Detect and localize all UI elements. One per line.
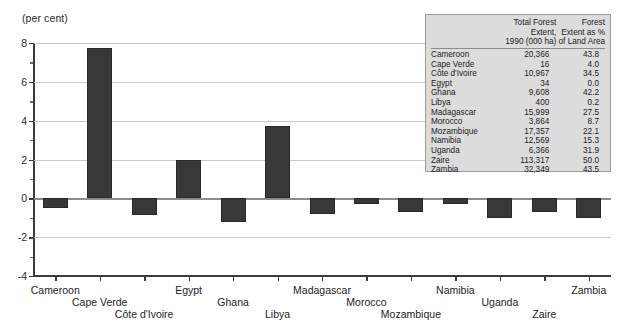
y-axis-tick <box>29 160 34 161</box>
y-axis-minor-tick <box>30 218 33 219</box>
y-axis-tick-label: -2 <box>18 231 27 243</box>
category-label: Uganda <box>481 296 518 308</box>
category-label: Zambia <box>571 284 606 296</box>
cell-country: Morocco <box>431 117 502 127</box>
table-row: Egypt340.0 <box>431 79 605 89</box>
cell-country: Mozambique <box>431 127 502 137</box>
category-axis-tick <box>366 275 367 281</box>
header-line-2: 1990 (000 ha) <box>505 37 556 46</box>
bar <box>354 198 379 204</box>
cell-pct-land-area: 31.9 <box>556 146 605 156</box>
category-axis-tick <box>500 275 501 281</box>
cell-country: Uganda <box>431 146 502 156</box>
bar <box>443 198 468 204</box>
table-row: Libya4000.2 <box>431 98 605 108</box>
y-axis-minor-tick <box>30 179 33 180</box>
y-axis-tick <box>29 43 34 44</box>
cell-forest-extent: 6,366 <box>502 146 556 156</box>
category-label: Côte d'Ivoire <box>115 308 174 320</box>
category-label: Ghana <box>217 296 249 308</box>
table-row: Morocco3,8648.7 <box>431 117 605 127</box>
bar <box>398 198 423 212</box>
cell-country: Zaire <box>431 156 502 166</box>
table-header-forest-extent-pct: Forest Extent as % of Land Area <box>556 18 605 48</box>
header-line-2: Extent as % <box>561 28 605 37</box>
category-label: Morocco <box>346 296 386 308</box>
cell-pct-land-area: 50.0 <box>556 156 605 166</box>
y-axis-minor-tick <box>30 101 33 102</box>
y-axis-tick-label: 2 <box>21 154 27 166</box>
bar <box>43 198 68 208</box>
bar <box>265 126 290 199</box>
table-row: Mozambique17,35722.1 <box>431 127 605 137</box>
y-axis-minor-tick <box>30 140 33 141</box>
cell-pct-land-area: 15.3 <box>556 136 605 146</box>
table-row: Uganda6,36631.9 <box>431 146 605 156</box>
y-axis-tick-label: 8 <box>21 37 27 49</box>
gridline <box>33 237 611 238</box>
y-axis-tick-label: 6 <box>21 76 27 88</box>
category-axis-tick <box>100 275 101 281</box>
cell-forest-extent: 16 <box>502 60 556 70</box>
y-axis-tick-label: -4 <box>18 270 27 282</box>
cell-pct-land-area: 34.5 <box>556 69 605 79</box>
cell-forest-extent: 3,864 <box>502 117 556 127</box>
category-label: Zaire <box>532 308 556 320</box>
cell-pct-land-area: 0.2 <box>556 98 605 108</box>
category-label: Egypt <box>175 284 202 296</box>
category-axis-tick <box>55 275 56 281</box>
cell-forest-extent: 32,349 <box>502 165 556 175</box>
cell-pct-land-area: 43.8 <box>556 48 605 60</box>
y-axis-minor-tick <box>30 62 33 63</box>
cell-pct-land-area: 8.7 <box>556 117 605 127</box>
table-header-total-forest-extent: Total Forest Extent, 1990 (000 ha) <box>502 18 556 48</box>
category-label: Cameroon <box>31 284 80 296</box>
category-axis-tick <box>455 275 456 281</box>
bar <box>487 198 512 217</box>
y-axis-tick <box>29 121 34 122</box>
cell-forest-extent: 20,366 <box>502 48 556 60</box>
cell-forest-extent: 34 <box>502 79 556 89</box>
table-row: Côte d'Ivoire10,96734.5 <box>431 69 605 79</box>
cell-country: Ghana <box>431 88 502 98</box>
category-label: Madagascar <box>293 284 351 296</box>
table-header-row: Total Forest Extent, 1990 (000 ha) Fores… <box>431 18 605 48</box>
category-axis-tick <box>589 275 590 281</box>
header-line-1: Total Forest Extent, <box>513 18 556 37</box>
table-header-country <box>431 18 502 48</box>
cell-pct-land-area: 0.0 <box>556 79 605 89</box>
cell-country: Namibia <box>431 136 502 146</box>
category-axis-tick <box>278 275 279 281</box>
bar <box>576 198 601 217</box>
y-axis-tick <box>29 198 34 199</box>
cell-forest-extent: 15,999 <box>502 108 556 118</box>
cell-pct-land-area: 43.5 <box>556 165 605 175</box>
figure: (per cent) -4-202468 CameroonCape VerdeC… <box>0 0 619 330</box>
category-axis-tick <box>411 275 412 281</box>
y-axis-tick-label: 0 <box>21 192 27 204</box>
category-axis-tick <box>322 275 323 281</box>
category-axis-tick <box>544 275 545 281</box>
cell-country: Libya <box>431 98 502 108</box>
bar <box>87 48 112 198</box>
category-axis-tick <box>144 275 145 281</box>
header-line-3: of Land Area <box>559 37 605 46</box>
y-axis-tick-labels: -4-202468 <box>0 43 27 276</box>
cell-forest-extent: 10,967 <box>502 69 556 79</box>
y-axis-tick <box>29 82 34 83</box>
bar <box>221 198 246 221</box>
bar <box>532 198 557 212</box>
cell-country: Cameroon <box>431 48 502 60</box>
cell-forest-extent: 17,357 <box>502 127 556 137</box>
cell-country: Egypt <box>431 79 502 89</box>
table-row: Zambia32,34943.5 <box>431 165 605 175</box>
y-axis-minor-tick <box>30 257 33 258</box>
table-row: Ghana9,60842.2 <box>431 88 605 98</box>
bar <box>310 198 335 214</box>
table-row: Cape Verde164.0 <box>431 60 605 70</box>
forest-extent-table: Total Forest Extent, 1990 (000 ha) Fores… <box>425 14 611 172</box>
header-line-1: Forest <box>582 18 605 27</box>
cell-pct-land-area: 4.0 <box>556 60 605 70</box>
cell-country: Cape Verde <box>431 60 502 70</box>
table-row: Madagascar15,99927.5 <box>431 108 605 118</box>
